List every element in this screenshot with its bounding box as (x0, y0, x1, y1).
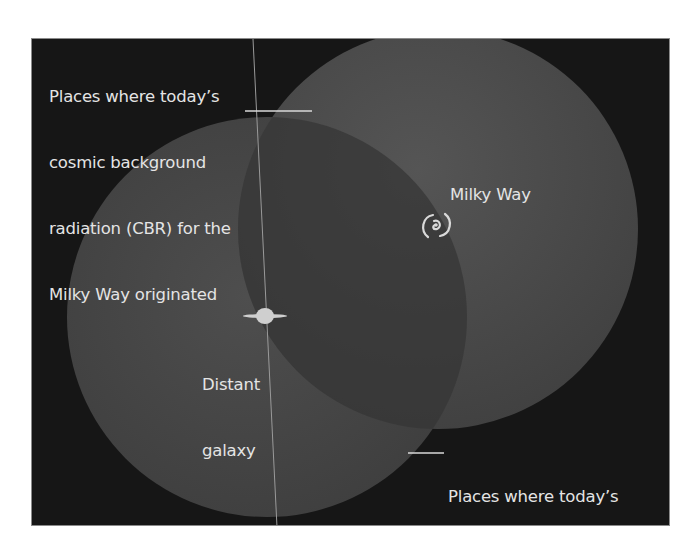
label-line: galaxy (202, 440, 260, 462)
diagram-panel: Places where today’s cosmic background r… (31, 38, 670, 526)
label-line: Places where today’s (49, 86, 231, 108)
label-line: cosmic background (49, 152, 231, 174)
milky-way-cbr-label: Places where today’s cosmic background r… (49, 42, 231, 350)
label-line: Milky Way originated (49, 284, 231, 306)
label-line: radiation (CBR) for the (49, 218, 231, 240)
distant-galaxy-cbr-label: Places where today’s CBR for the distant… (448, 442, 618, 526)
distant-galaxy-label: Distant galaxy (202, 330, 260, 506)
milky-way-label: Milky Way (450, 184, 531, 206)
label-line: Distant (202, 374, 260, 396)
label-line: Places where today’s (448, 486, 618, 508)
